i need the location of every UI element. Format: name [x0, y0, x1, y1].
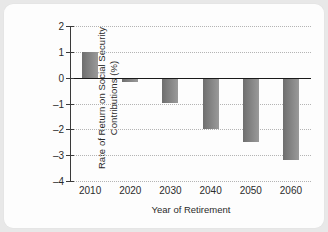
x-axis-title: Year of Retirement [66, 204, 316, 215]
bar-2050 [243, 78, 259, 143]
y-axis-tick [66, 129, 74, 130]
y-axis-tick-label: –4 [38, 176, 64, 187]
y-axis-tick-label: 1 [38, 46, 64, 57]
y-axis-tick-label: 0 [38, 72, 64, 83]
x-axis-tick-label-2030: 2030 [159, 185, 181, 196]
bar-2040 [203, 78, 219, 130]
bar-2030 [162, 78, 178, 104]
gridline [70, 181, 311, 182]
y-axis-tick [66, 104, 74, 105]
gridline [70, 26, 311, 27]
x-axis-tick-label-2040: 2040 [199, 185, 221, 196]
x-axis-tick-label-2020: 2020 [119, 185, 141, 196]
zero-axis-line [70, 78, 311, 79]
y-axis-tick [66, 78, 74, 79]
gridline [70, 155, 311, 156]
x-axis-tick-label-2060: 2060 [280, 185, 302, 196]
y-axis-tick [66, 155, 74, 156]
chart-figure: Rate of Return on Social Security Contri… [4, 4, 324, 228]
gridline [70, 52, 311, 53]
y-axis-tick-label: –3 [38, 150, 64, 161]
x-axis-tick-label-2010: 2010 [79, 185, 101, 196]
gridline [70, 104, 311, 105]
y-axis-tick [66, 26, 74, 27]
y-axis-tick-label: –2 [38, 124, 64, 135]
bar-2010 [82, 52, 98, 78]
y-axis-tick [66, 181, 74, 182]
y-axis-tick [66, 52, 74, 53]
bar-2060 [283, 78, 299, 161]
y-axis-tick-label: 2 [38, 21, 64, 32]
gridline [70, 129, 311, 130]
plot-area: 210–1–2–3–4 201020202030204020502060 [70, 26, 311, 181]
y-axis-tick-label: –1 [38, 98, 64, 109]
x-axis-tick-label-2050: 2050 [240, 185, 262, 196]
